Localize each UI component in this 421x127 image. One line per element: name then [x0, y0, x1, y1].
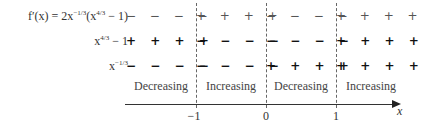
tick-label-minus-1: −1: [184, 109, 204, 124]
interval-label-3: Decreasing: [266, 79, 336, 94]
interval-label-1: Decreasing: [126, 79, 196, 94]
axis-label-x: x: [397, 104, 402, 119]
tick-label-0: 0: [256, 109, 276, 124]
number-line: [125, 104, 395, 105]
divider-at-1: [336, 3, 337, 108]
row-label-factor-1: x4/3 − 1: [94, 34, 128, 49]
sign-cell-r1-c1: − − − −: [126, 9, 196, 23]
sign-cell-r1-c4: + + + +: [336, 9, 406, 23]
sign-cell-r2-c2: − − − −: [196, 34, 266, 48]
tick-label-1: 1: [326, 109, 346, 124]
sign-cell-r3-c4: + + + +: [336, 59, 406, 73]
fprime-exponent-2: 4/3: [96, 9, 105, 17]
row-label-fprime: f′(x) = 2x−1/3(x4/3 − 1): [28, 9, 128, 24]
sign-cell-r1-c2: + + + +: [196, 9, 266, 23]
fprime-suffix: − 1): [105, 9, 128, 23]
sign-cell-r3-c3: + + + +: [266, 59, 336, 73]
divider-at-minus-1: [196, 3, 197, 108]
sign-cell-r3-c2: − − − −: [196, 59, 266, 73]
sign-cell-r1-c3: − − − −: [266, 9, 336, 23]
sign-cell-r2-c1: + + + +: [126, 34, 196, 48]
interval-label-2: Increasing: [196, 79, 266, 94]
fprime-prefix: f′(x) = 2x: [28, 9, 73, 23]
sign-cell-r3-c1: − − − −: [126, 59, 196, 73]
factor1-exponent: 4/3: [100, 34, 109, 42]
interval-label-4: Increasing: [336, 79, 406, 94]
fprime-mid: (x: [86, 9, 96, 23]
sign-cell-r2-c4: + + + +: [336, 34, 406, 48]
fprime-exponent-1: −1/3: [73, 9, 86, 17]
divider-at-0: [266, 3, 267, 108]
sign-cell-r2-c3: − − − −: [266, 34, 336, 48]
